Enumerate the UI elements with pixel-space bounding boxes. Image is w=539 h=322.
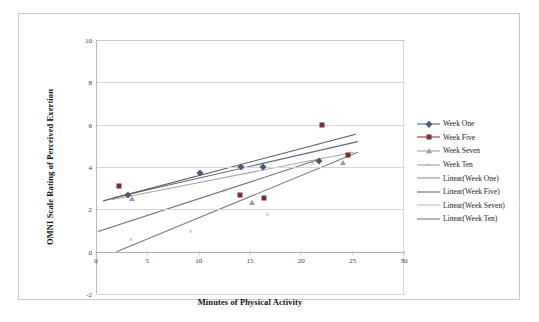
legend-marker-cross-icon: × [426, 162, 432, 168]
chart-page: OMNI Scale Rating of Perceived Exertion … [0, 0, 539, 322]
x-axis-title: Minutes of Physical Activity [96, 297, 404, 307]
legend-symbol [417, 199, 440, 211]
x-axis-tick-label: 20 [298, 257, 305, 265]
legend-symbol [417, 145, 440, 157]
legend-label: Week Five [443, 133, 475, 142]
legend-item: Week Five [417, 131, 529, 145]
gridline: 4 [97, 167, 405, 168]
data-point [262, 195, 267, 200]
gridline: -2 [97, 294, 405, 295]
y-axis-title: OMNI Scale Rating of Perceived Exertion [43, 40, 57, 294]
legend-label: Week One [443, 119, 474, 128]
data-point: × [127, 235, 134, 242]
data-point [129, 196, 135, 201]
chart-legend: Week OneWeek FiveWeek Seven×Week TenLine… [417, 117, 529, 226]
legend-symbol [417, 172, 440, 184]
chart-outer-frame: OMNI Scale Rating of Perceived Exertion … [18, 13, 520, 300]
data-point [116, 184, 121, 189]
y-axis-tick-label: 8 [89, 79, 93, 87]
legend-marker-diamond-icon [425, 121, 431, 127]
data-point [340, 160, 346, 165]
legend-label: Linear(Week One) [443, 174, 499, 183]
x-axis-tick-label: 5 [146, 257, 150, 265]
legend-label: Linear(Week Ten) [443, 214, 497, 223]
data-point: × [221, 187, 228, 194]
data-point [345, 153, 350, 158]
gridline: 6 [97, 125, 405, 126]
legend-line [417, 218, 440, 219]
legend-line [417, 191, 440, 192]
y-axis-tick-label: 4 [89, 164, 93, 172]
x-axis-tick-mark [198, 251, 199, 255]
y-axis-tick-label: 0 [89, 249, 93, 257]
legend-symbol [417, 118, 440, 130]
legend-item: Linear(Week One) [417, 171, 529, 185]
y-axis-tick-label: -2 [86, 291, 92, 299]
legend-line [417, 178, 440, 179]
legend-symbol [417, 213, 440, 225]
legend-label: Week Seven [443, 146, 480, 155]
x-axis-tick-label: 25 [349, 257, 356, 265]
data-point [249, 200, 255, 205]
legend-item: Linear(Week Seven) [417, 199, 529, 213]
y-axis-tick-label: 2 [89, 206, 93, 214]
legend-item: Week One [417, 117, 529, 131]
data-point: × [187, 227, 194, 234]
x-axis-tick-label: 10 [195, 257, 202, 265]
x-axis-tick-mark [96, 251, 97, 255]
legend-label: Linear(Week Seven) [443, 201, 505, 210]
legend-symbol [417, 131, 440, 143]
y-axis-tick-label: 10 [85, 37, 92, 45]
x-axis-ticks: 051015202530 [96, 251, 404, 273]
legend-line [417, 205, 440, 206]
x-axis-tick-label: 15 [247, 257, 254, 265]
gridline: 10 [97, 40, 405, 41]
legend-marker-triangle-icon [426, 148, 432, 153]
x-axis-tick-mark [147, 251, 148, 255]
x-axis-tick-label: 0 [94, 257, 98, 265]
legend-item: Linear(Week Five) [417, 185, 529, 199]
data-point: × [264, 210, 271, 217]
legend-marker-square-icon [426, 135, 431, 140]
data-point: × [309, 159, 316, 166]
x-axis-tick-label: 30 [401, 257, 408, 265]
x-axis-tick-mark [352, 251, 353, 255]
data-point [237, 192, 242, 197]
gridline: 2 [97, 209, 405, 210]
legend-symbol: × [417, 159, 440, 171]
x-axis-tick-mark [301, 251, 302, 255]
y-axis-tick-label: 6 [89, 122, 93, 130]
gridline: 8 [97, 82, 405, 83]
x-axis-tick-mark [404, 251, 405, 255]
legend-item: Week Seven [417, 144, 529, 158]
legend-item: Linear(Week Ten) [417, 212, 529, 226]
trendline [113, 142, 357, 198]
x-axis-tick-mark [250, 251, 251, 255]
legend-label: Linear(Week Five) [443, 187, 500, 196]
data-point [319, 122, 324, 127]
legend-label: Week Ten [443, 160, 473, 169]
legend-item: ×Week Ten [417, 158, 529, 172]
legend-symbol [417, 186, 440, 198]
